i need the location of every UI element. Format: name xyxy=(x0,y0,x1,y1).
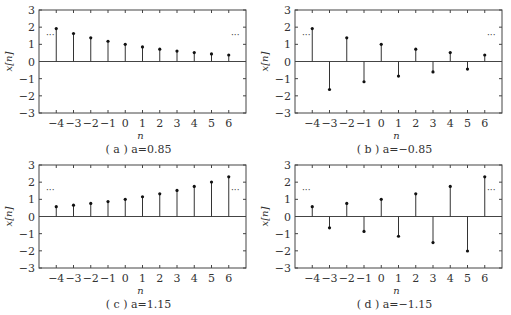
stem-marker xyxy=(380,198,383,201)
stem-marker xyxy=(431,70,434,73)
stem-marker xyxy=(106,200,109,203)
stem-marker xyxy=(158,192,161,195)
stem-marker xyxy=(89,202,92,205)
x-tick-label: 3 xyxy=(174,272,181,285)
stems xyxy=(55,175,231,216)
panel-caption: ( d ) a=−1.15 xyxy=(357,298,433,311)
y-tick-label: 0 xyxy=(284,56,291,69)
x-tick-label: −3 xyxy=(321,117,337,130)
x-tick-label: −2 xyxy=(83,272,99,285)
stem-marker xyxy=(431,241,434,244)
panel-d: −3−2−10123−4−3−2−10123456······x[n]n( d … xyxy=(256,155,511,315)
stem-marker xyxy=(362,80,365,83)
x-tick-label: 4 xyxy=(447,117,454,130)
x-tick-label: 2 xyxy=(412,272,419,285)
stem-marker xyxy=(466,249,469,252)
y-tick-label: 3 xyxy=(28,159,35,172)
stem-chart-c: −3−2−10123−4−3−2−10123456······x[n]n( c … xyxy=(0,155,255,315)
x-tick-label: 4 xyxy=(191,272,198,285)
stem-marker xyxy=(345,36,348,39)
x-tick-label: −4 xyxy=(48,272,64,285)
stem-marker xyxy=(483,175,486,178)
stem-marker xyxy=(449,51,452,54)
y-tick-label: −1 xyxy=(19,73,35,86)
y-tick-label: −1 xyxy=(19,228,35,241)
x-tick-label: 6 xyxy=(481,117,488,130)
y-tick-label: 1 xyxy=(284,193,291,206)
y-axis-label: x[n] xyxy=(3,51,14,71)
stem-marker xyxy=(227,175,230,178)
stems xyxy=(311,27,487,91)
stem-marker xyxy=(141,45,144,48)
x-tick-label: 3 xyxy=(430,117,437,130)
stem-marker xyxy=(414,192,417,195)
x-tick-label: −1 xyxy=(356,117,372,130)
ellipsis-left: ··· xyxy=(46,185,55,195)
x-tick-label: 2 xyxy=(412,117,419,130)
panel-a: −3−2−10123−4−3−2−10123456······x[n]n( a … xyxy=(0,0,255,157)
x-tick-label: 6 xyxy=(225,117,232,130)
x-tick-label: −1 xyxy=(100,117,116,130)
y-tick-label: −2 xyxy=(275,245,291,258)
x-tick-label: 0 xyxy=(378,117,385,130)
stem-marker xyxy=(89,36,92,39)
y-axis-label: x[n] xyxy=(259,206,270,226)
y-tick-label: 1 xyxy=(284,38,291,51)
x-tick-label: 5 xyxy=(464,117,471,130)
stem-marker xyxy=(72,32,75,35)
x-tick-label: 4 xyxy=(191,117,198,130)
ellipsis-right: ··· xyxy=(231,185,240,195)
panel-caption: ( c ) a=1.15 xyxy=(106,298,172,311)
stem-marker xyxy=(55,27,58,30)
stem-marker xyxy=(311,205,314,208)
x-tick-label: 1 xyxy=(139,117,146,130)
x-tick-label: 4 xyxy=(447,272,454,285)
stem-marker xyxy=(328,88,331,91)
y-tick-label: −2 xyxy=(275,90,291,103)
y-tick-label: −1 xyxy=(275,73,291,86)
stem-marker xyxy=(210,180,213,183)
x-tick-label: −3 xyxy=(65,272,81,285)
y-tick-label: −3 xyxy=(275,262,291,275)
stem-marker xyxy=(345,202,348,205)
y-tick-label: −3 xyxy=(19,262,35,275)
x-tick-label: −2 xyxy=(339,272,355,285)
stem-marker xyxy=(449,185,452,188)
x-tick-label: 0 xyxy=(122,117,129,130)
stems xyxy=(55,27,231,62)
ellipsis-right: ··· xyxy=(487,185,496,195)
stem-marker xyxy=(193,51,196,54)
stem-marker xyxy=(72,204,75,207)
ellipsis-right: ··· xyxy=(487,30,496,40)
stem-marker xyxy=(106,40,109,43)
y-tick-label: 3 xyxy=(284,159,291,172)
stem-marker xyxy=(397,235,400,238)
y-tick-label: 2 xyxy=(28,176,35,189)
panel-c: −3−2−10123−4−3−2−10123456······x[n]n( c … xyxy=(0,155,255,315)
ellipsis-right: ··· xyxy=(231,30,240,40)
x-tick-label: 6 xyxy=(481,272,488,285)
y-tick-label: −3 xyxy=(275,107,291,120)
stem-marker xyxy=(311,27,314,30)
x-axis-label: n xyxy=(393,130,399,141)
y-tick-label: −3 xyxy=(19,107,35,120)
x-tick-label: 2 xyxy=(156,272,163,285)
x-tick-label: 1 xyxy=(395,272,402,285)
stem-marker xyxy=(193,185,196,188)
x-tick-label: 6 xyxy=(225,272,232,285)
x-axis-label: n xyxy=(137,130,143,141)
y-tick-label: −2 xyxy=(19,90,35,103)
x-tick-label: 5 xyxy=(208,117,215,130)
x-axis-label: n xyxy=(137,285,143,296)
stem-marker xyxy=(362,230,365,233)
y-tick-label: 1 xyxy=(28,193,35,206)
stem-marker xyxy=(397,74,400,77)
stem-marker xyxy=(124,43,127,46)
x-tick-label: 0 xyxy=(122,272,129,285)
x-axis: −4−3−2−10123456 xyxy=(48,10,232,130)
x-tick-label: −1 xyxy=(100,272,116,285)
y-tick-label: 1 xyxy=(28,38,35,51)
stem-chart-b: −3−2−10123−4−3−2−10123456······x[n]n( b … xyxy=(256,0,511,157)
stems xyxy=(311,175,487,252)
stem-marker xyxy=(466,67,469,70)
